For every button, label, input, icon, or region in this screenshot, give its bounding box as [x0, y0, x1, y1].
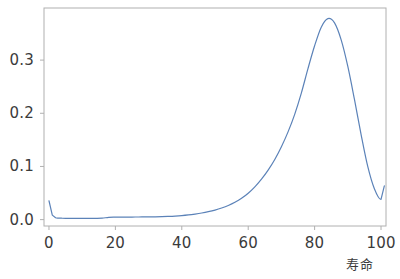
x-axis-label: 寿命 — [346, 254, 373, 273]
y-tick-label-0: 0.0 — [0, 211, 34, 229]
plot-frame — [44, 8, 386, 226]
x-tick-label-5: 100 — [351, 234, 400, 252]
y-tick-label-1: 0.1 — [0, 157, 34, 175]
x-axis-ticks — [49, 226, 381, 230]
x-tick-label-4: 80 — [285, 234, 345, 252]
y-tick-label-2: 0.2 — [0, 104, 34, 122]
x-tick-label-2: 40 — [152, 234, 212, 252]
x-tick-label-1: 20 — [85, 234, 145, 252]
y-tick-label-3: 0.3 — [0, 51, 34, 69]
x-tick-label-3: 60 — [218, 234, 278, 252]
x-tick-label-0: 0 — [19, 234, 79, 252]
y-axis-ticks — [40, 60, 44, 220]
chart-figure: 0.0 0.1 0.2 0.3 0 20 40 60 80 100 寿命 — [0, 0, 400, 279]
